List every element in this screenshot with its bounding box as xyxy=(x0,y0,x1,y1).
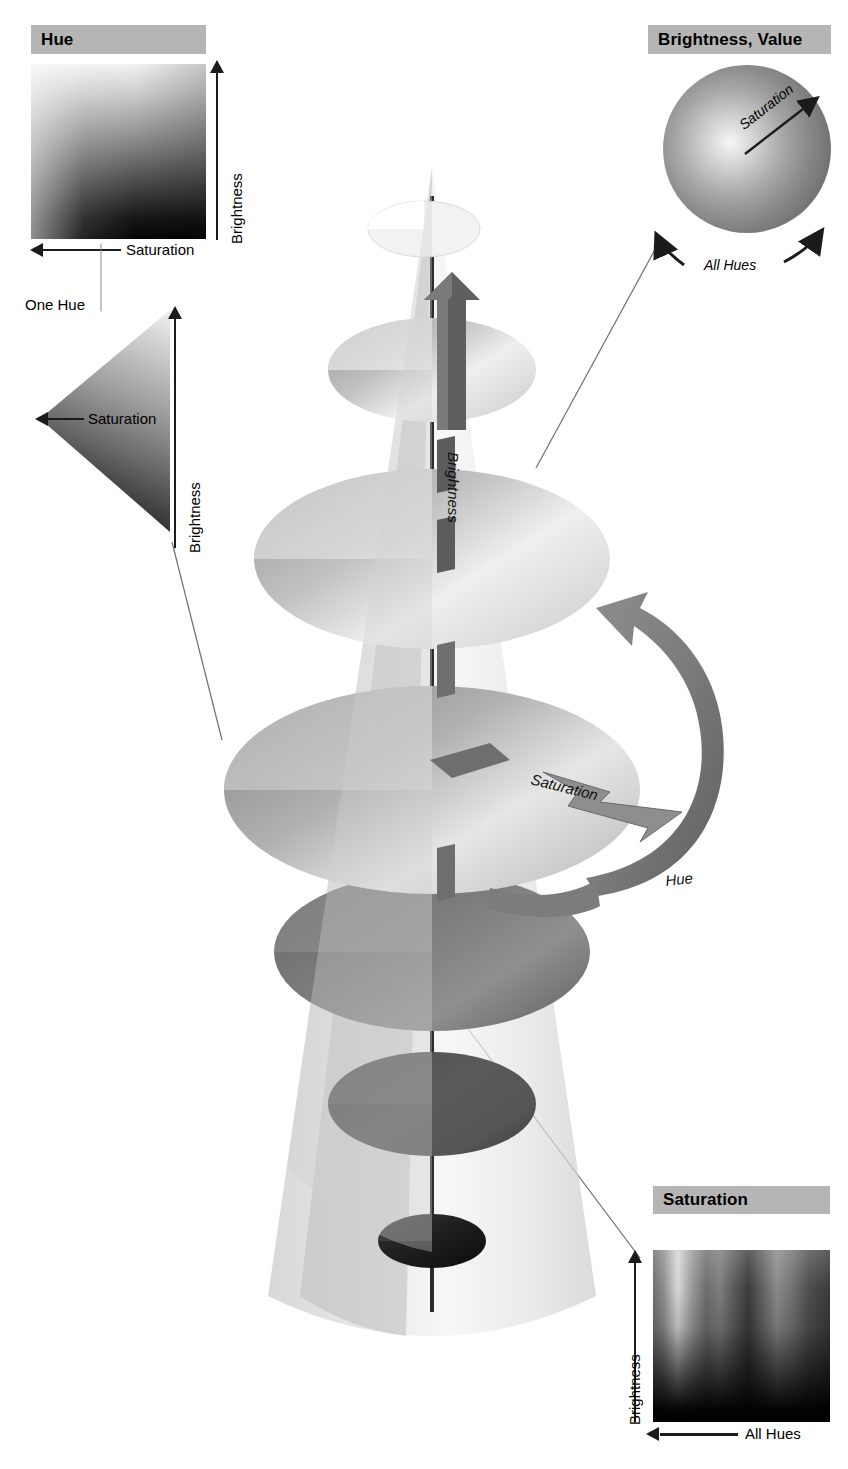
cone-brightness-label: Brightness xyxy=(445,452,462,523)
figure-canvas: Hue Brightness Saturation One Hue Satura… xyxy=(0,0,848,1469)
cone-diagram: Brightness Saturation Hue xyxy=(0,0,848,1469)
cone-hue-label: Hue xyxy=(665,869,694,889)
